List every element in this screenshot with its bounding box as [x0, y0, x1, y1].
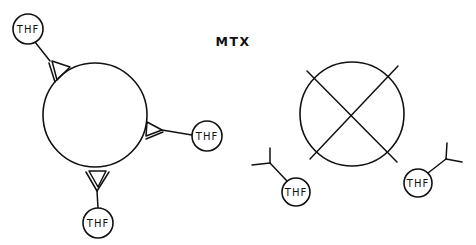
thf-label: THF: [86, 218, 109, 229]
receptor-site-bottom: [86, 171, 109, 208]
left-panel: THF THF THF: [13, 14, 222, 238]
thf-label: THF: [284, 187, 307, 198]
free-thf-lower-left: THF: [252, 148, 310, 206]
diagram-canvas: MTX THF THF: [0, 0, 476, 245]
thf-group-upper-left: THF: [13, 14, 43, 44]
title-mtx: MTX: [215, 34, 250, 49]
thf-label: THF: [406, 178, 429, 189]
y-arm-icon: [252, 148, 287, 181]
right-panel: THF THF: [252, 62, 462, 206]
thf-label: THF: [16, 24, 39, 35]
thf-group-right: THF: [192, 121, 222, 151]
linker-upper-left: [35, 42, 50, 61]
linker-bottom: [97, 191, 98, 208]
thf-label: THF: [195, 131, 218, 142]
y-arm-icon: [428, 143, 462, 173]
receptor-site-right: [146, 122, 192, 139]
free-thf-lower-right: THF: [404, 143, 462, 197]
thf-group-bottom: THF: [83, 208, 113, 238]
linker-right: [162, 130, 192, 135]
